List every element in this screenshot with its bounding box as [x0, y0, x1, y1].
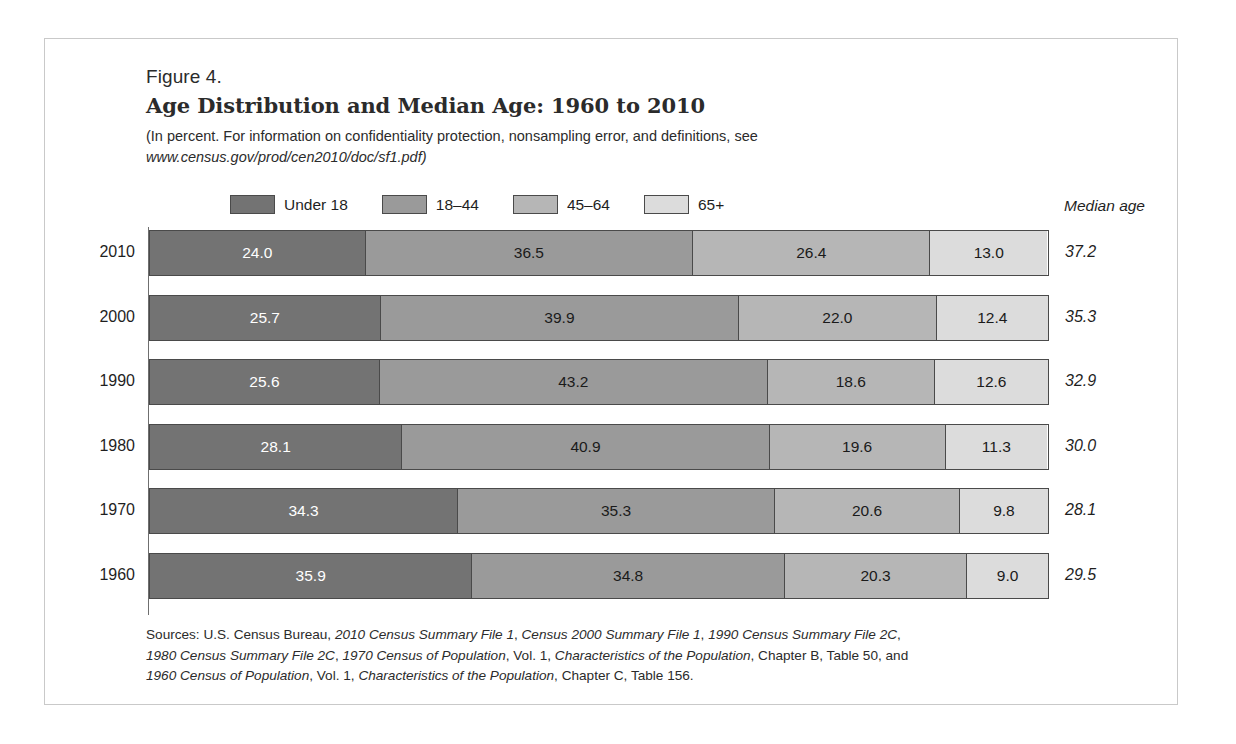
bar-segment-value: 26.4 — [796, 244, 826, 262]
bar-segment: 28.1 — [150, 425, 402, 469]
bar-segment: 11.3 — [946, 425, 1047, 469]
bar-track: 28.140.919.611.3 — [149, 424, 1049, 470]
sources-citation: 1960 Census of Population — [146, 668, 309, 683]
figure-frame: Figure 4. Age Distribution and Median Ag… — [44, 38, 1178, 705]
bar-segment: 22.0 — [739, 296, 937, 340]
bar-segment: 20.6 — [775, 489, 960, 533]
bar-segment-value: 35.3 — [601, 502, 631, 520]
bar-track: 24.036.526.413.0 — [149, 230, 1049, 276]
sources-text: , Chapter C, Table 156. — [554, 668, 694, 683]
median-age-value: 35.3 — [1065, 308, 1157, 326]
bar-segment-value: 12.4 — [977, 309, 1007, 327]
bar-row: 199025.643.218.612.632.9 — [45, 356, 1179, 408]
bar-segment: 36.5 — [366, 231, 694, 275]
bar-row-year-label: 1970 — [45, 501, 135, 519]
bar-segment: 34.8 — [472, 554, 785, 598]
bar-segment-value: 28.1 — [261, 438, 291, 456]
bar-segment-value: 35.9 — [296, 567, 326, 585]
bar-row-year-label: 1960 — [45, 566, 135, 584]
bar-track: 35.934.820.39.0 — [149, 553, 1049, 599]
bar-track: 34.335.320.69.8 — [149, 488, 1049, 534]
sources-citation: 1970 Census of Population — [342, 648, 505, 663]
bar-segment-value: 34.3 — [288, 502, 318, 520]
sources-citation: 2010 Census Summary File 1 — [335, 627, 514, 642]
bar-segment-value: 24.0 — [242, 244, 272, 262]
bar-segment: 12.6 — [935, 360, 1048, 404]
bar-segment-value: 9.8 — [993, 502, 1015, 520]
bar-segment: 9.8 — [960, 489, 1048, 533]
bar-segment-value: 12.6 — [976, 373, 1006, 391]
sources-text: , Chapter B, Table 50, and — [751, 648, 909, 663]
median-age-value: 29.5 — [1065, 566, 1157, 584]
sources-citation: 1990 Census Summary File 2C — [708, 627, 897, 642]
bar-segment-value: 40.9 — [570, 438, 600, 456]
sources-line-1: Sources: U.S. Census Bureau, 2010 Census… — [146, 625, 1146, 646]
bar-segment: 35.3 — [458, 489, 775, 533]
bar-segment: 18.6 — [768, 360, 935, 404]
bar-segment: 19.6 — [770, 425, 946, 469]
median-age-value: 32.9 — [1065, 372, 1157, 390]
bar-segment: 20.3 — [785, 554, 967, 598]
bar-segment: 24.0 — [150, 231, 366, 275]
bar-segment: 12.4 — [937, 296, 1048, 340]
sources-text: , — [897, 627, 901, 642]
sources-text: , — [514, 627, 522, 642]
bar-row-year-label: 2010 — [45, 243, 135, 261]
bar-segment: 25.6 — [150, 360, 380, 404]
sources-citation: Characteristics of the Population — [358, 668, 554, 683]
median-age-value: 30.0 — [1065, 437, 1157, 455]
median-age-value: 28.1 — [1065, 501, 1157, 519]
bar-row-year-label: 1980 — [45, 437, 135, 455]
bar-segment-value: 11.3 — [982, 438, 1011, 456]
sources-text: Sources: U.S. Census Bureau, — [146, 627, 335, 642]
bar-segment: 35.9 — [150, 554, 472, 598]
bar-track: 25.739.922.012.4 — [149, 295, 1049, 341]
sources-citation: Census 2000 Summary File 1 — [522, 627, 701, 642]
bar-row: 201024.036.526.413.037.2 — [45, 227, 1179, 279]
bar-row: 198028.140.919.611.330.0 — [45, 421, 1179, 473]
bar-segment: 13.0 — [930, 231, 1047, 275]
sources-citation: 1980 Census Summary File 2C — [146, 648, 335, 663]
bar-segment-value: 43.2 — [558, 373, 588, 391]
bar-segment: 25.7 — [150, 296, 381, 340]
bar-segment-value: 20.3 — [860, 567, 890, 585]
stacked-bar-chart: 201024.036.526.413.037.2200025.739.922.0… — [45, 39, 1179, 706]
sources-line-3: 1960 Census of Population, Vol. 1, Chara… — [146, 666, 1146, 687]
sources-text: , Vol. 1, — [309, 668, 358, 683]
bar-track: 25.643.218.612.6 — [149, 359, 1049, 405]
bar-segment-value: 22.0 — [822, 309, 852, 327]
bar-row: 196035.934.820.39.029.5 — [45, 550, 1179, 602]
bar-segment-value: 19.6 — [842, 438, 872, 456]
bar-segment: 9.0 — [967, 554, 1048, 598]
bar-segment: 39.9 — [381, 296, 739, 340]
bar-segment-value: 18.6 — [836, 373, 866, 391]
bar-row-year-label: 1990 — [45, 372, 135, 390]
bar-segment-value: 39.9 — [544, 309, 574, 327]
bar-row: 200025.739.922.012.435.3 — [45, 292, 1179, 344]
bar-row-year-label: 2000 — [45, 308, 135, 326]
bar-row: 197034.335.320.69.828.1 — [45, 485, 1179, 537]
bar-segment: 43.2 — [380, 360, 768, 404]
bar-segment: 40.9 — [402, 425, 769, 469]
sources-text: , Vol. 1, — [506, 648, 555, 663]
bar-segment: 26.4 — [693, 231, 930, 275]
bar-segment-value: 34.8 — [613, 567, 643, 585]
bar-segment: 34.3 — [150, 489, 458, 533]
bar-segment-value: 25.6 — [249, 373, 279, 391]
sources-line-2: 1980 Census Summary File 2C, 1970 Census… — [146, 646, 1146, 667]
bar-segment-value: 25.7 — [250, 309, 280, 327]
bar-segment-value: 20.6 — [852, 502, 882, 520]
bar-segment-value: 13.0 — [974, 244, 1004, 262]
sources-note: Sources: U.S. Census Bureau, 2010 Census… — [146, 625, 1146, 687]
sources-citation: Characteristics of the Population — [555, 648, 751, 663]
bar-segment-value: 36.5 — [514, 244, 544, 262]
median-age-value: 37.2 — [1065, 243, 1157, 261]
bar-segment-value: 9.0 — [997, 567, 1019, 585]
